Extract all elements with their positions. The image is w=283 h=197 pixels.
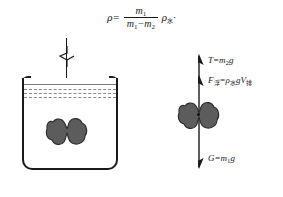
water-dash-line [24,89,116,90]
buoyancy-rho-subscript: 水 [230,79,236,86]
buoyancy-subscript: 浮 [214,79,220,86]
formula-period: · [173,11,176,23]
center-of-gravity-dot [197,113,200,116]
numerator-m: m [135,5,142,16]
denominator-m1-subscript: 1 [134,23,138,31]
suspended-rock [44,114,90,148]
buoyancy-volume-subscript: 排 [246,79,252,86]
buoyancy-symbol: F [208,75,214,85]
tension-mass: m [219,55,226,65]
mass-fraction: m1 m1−m2 [124,6,158,29]
figure-canvas: ρ= m1 m1−m2 ρ水· [0,0,283,197]
tension-gravity-constant: g [229,55,234,65]
numerator-subscript: 1 [143,10,147,18]
spring-scale-hook-icon [56,46,80,68]
tension-mass-subscript: 2 [226,59,230,67]
force-label-tension: T=m2g [208,56,234,65]
formula-rhs: ρ水· [162,12,176,23]
equals-sign: = [113,11,120,23]
fraction-numerator: m1 [124,6,158,17]
gravity-mass-subscript: 1 [227,157,231,165]
formula-lhs: ρ= [107,12,120,23]
panel-a-beaker-setup: (a) [18,36,138,176]
force-label-buoyancy: F浮=ρ水gV排 [208,76,252,85]
gravity-constant: g [231,153,236,163]
density-formula: ρ= m1 m1−m2 ρ水· [0,6,283,29]
denominator-m1: m [127,18,134,29]
panel-b-free-body-diagram: T=m2g F浮=ρ水gV排 G=m1g (b) [160,36,283,176]
denominator-m2-subscript: 2 [151,23,155,31]
water-dash-line [24,93,116,94]
water-surface-line [24,84,116,85]
water-dash-line [24,97,116,98]
fraction-denominator: m1−m2 [124,17,158,29]
buoyancy-gv: gV [236,75,246,85]
force-label-gravity: G=m1g [208,154,235,163]
rho-water-subscript: 水 [167,17,173,24]
